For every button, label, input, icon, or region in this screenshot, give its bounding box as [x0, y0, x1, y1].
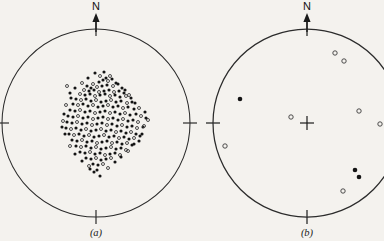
stereonet-panel-b: N (b): [192, 0, 384, 241]
data-point-filled: [125, 125, 128, 128]
data-point-open: [92, 118, 95, 121]
data-point-filled: [129, 96, 132, 99]
data-point-filled: [128, 113, 131, 116]
data-point-filled: [96, 116, 99, 119]
data-point-open: [96, 142, 99, 145]
data-point-open: [110, 99, 113, 102]
data-point-filled: [100, 140, 103, 143]
data-point-filled: [71, 115, 74, 118]
data-point-filled: [86, 104, 89, 107]
data-point-filled: [96, 105, 99, 108]
data-point-filled: [104, 76, 107, 79]
data-point-open: [341, 189, 345, 193]
data-point-filled: [130, 100, 133, 103]
data-point-filled: [75, 139, 78, 142]
data-point-filled: [127, 137, 130, 140]
data-point-open: [99, 75, 102, 78]
data-point-filled: [115, 140, 118, 143]
data-point-filled: [80, 122, 83, 125]
data-point-open: [118, 137, 121, 140]
data-point-filled: [97, 134, 100, 137]
data-point-open: [342, 59, 346, 63]
data-point-open: [77, 104, 80, 107]
data-point-filled: [118, 112, 121, 115]
data-point-filled: [104, 157, 107, 160]
data-point-filled: [113, 93, 116, 96]
data-point-filled: [108, 152, 111, 155]
panel-caption-a: (a): [90, 227, 103, 239]
data-point-filled: [120, 86, 123, 89]
data-point-open: [140, 115, 143, 118]
data-point-filled: [93, 152, 96, 155]
data-point-filled: [63, 132, 66, 135]
data-point-filled: [68, 91, 71, 94]
data-point-open: [80, 99, 83, 102]
data-point-filled: [113, 151, 116, 154]
data-point-filled: [85, 121, 88, 124]
data-point-open: [95, 146, 98, 149]
data-point-filled: [111, 116, 114, 119]
data-point-filled: [113, 110, 116, 113]
data-point-filled: [69, 96, 72, 99]
data-point-open: [106, 124, 109, 127]
data-point-open: [69, 145, 72, 148]
data-point-filled: [80, 159, 83, 162]
data-point-filled: [116, 118, 119, 121]
data-point-open: [73, 134, 76, 137]
data-point-open: [126, 102, 129, 105]
data-point-filled: [86, 76, 89, 79]
data-point-filled: [95, 122, 98, 125]
data-point-open: [76, 121, 79, 124]
data-point-filled: [89, 146, 92, 149]
data-point-filled: [62, 112, 65, 115]
data-point-open: [289, 115, 293, 119]
data-point-filled: [91, 162, 94, 165]
data-point-filled: [110, 122, 113, 125]
data-point-filled: [99, 100, 102, 103]
data-point-filled: [64, 126, 67, 129]
data-point-open: [121, 124, 124, 127]
data-point-open: [378, 122, 382, 126]
data-point-filled: [100, 84, 103, 87]
data-point-open: [138, 107, 141, 110]
data-point-filled: [107, 88, 110, 91]
data-point-filled: [107, 135, 110, 138]
data-point-filled: [81, 116, 84, 119]
data-point-filled: [102, 70, 105, 73]
data-point-open: [136, 127, 139, 130]
data-point-open: [70, 128, 73, 131]
data-point-filled: [109, 128, 112, 131]
data-point-filled: [89, 99, 92, 102]
data-point-filled: [92, 88, 95, 91]
data-point-open: [126, 142, 129, 145]
data-point-filled: [101, 78, 104, 81]
data-point-filled: [79, 128, 82, 131]
data-point-open: [113, 91, 116, 94]
data-point-open: [85, 128, 88, 131]
data-point-filled: [71, 102, 74, 105]
data-point-filled: [119, 129, 122, 132]
data-point-open: [77, 115, 80, 118]
data-point-open: [89, 151, 92, 154]
data-point-filled: [102, 89, 105, 92]
data-point-filled: [98, 151, 101, 154]
data-point-open: [88, 165, 91, 168]
data-point-filled: [92, 170, 95, 173]
data-point-filled: [115, 124, 118, 127]
data-point-filled: [124, 131, 127, 134]
data-point-filled: [98, 174, 101, 177]
data-point-filled: [112, 134, 115, 137]
data-point-filled: [88, 92, 91, 95]
data-point-open: [98, 91, 101, 94]
data-point-filled: [95, 168, 98, 171]
data-point-open: [94, 95, 97, 98]
data-point-filled: [67, 132, 70, 135]
data-point-filled: [89, 157, 92, 160]
data-point-filled: [133, 101, 136, 104]
data-point-open: [91, 124, 94, 127]
data-point-filled: [117, 89, 120, 92]
data-point-filled: [96, 163, 99, 166]
data-point-filled: [90, 139, 93, 142]
data-point-open: [95, 157, 98, 160]
data-point-open: [109, 112, 112, 115]
